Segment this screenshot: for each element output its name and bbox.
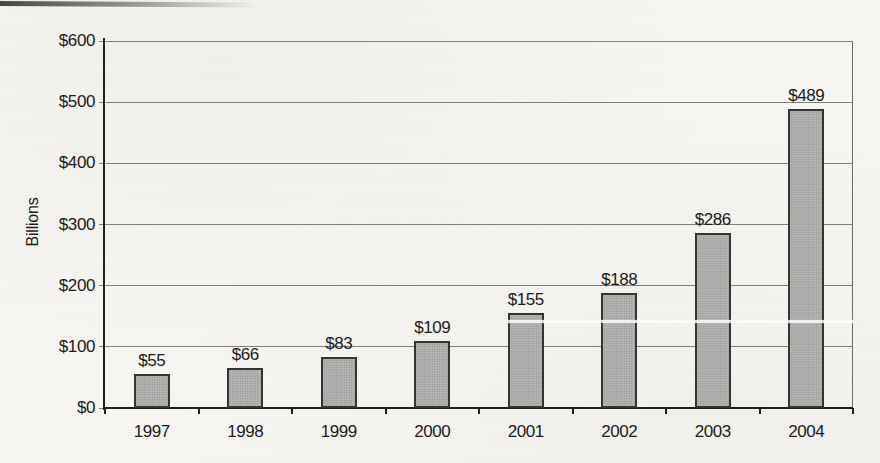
bar-value-label: $489 bbox=[771, 86, 841, 105]
y-tick-label: $0 bbox=[29, 399, 95, 417]
x-axis-tick bbox=[852, 408, 854, 414]
x-tick-label: 2003 bbox=[673, 423, 753, 441]
x-axis-tick bbox=[572, 408, 574, 414]
x-tick-label: 1999 bbox=[299, 423, 379, 441]
y-tick-label: $300 bbox=[29, 216, 95, 234]
x-tick-label: 1997 bbox=[112, 423, 192, 441]
bar-2002 bbox=[601, 293, 637, 408]
bar-value-label: $109 bbox=[397, 318, 467, 337]
x-axis-tick bbox=[478, 408, 480, 414]
scan-artifact-top-edge bbox=[0, 1, 258, 8]
scan-streak-artifact bbox=[503, 320, 853, 323]
y-tick-label: $400 bbox=[29, 154, 95, 172]
y-axis-line bbox=[103, 38, 105, 410]
x-axis-tick bbox=[385, 408, 387, 414]
x-axis-tick bbox=[665, 408, 667, 414]
bar-1997 bbox=[134, 374, 170, 408]
y-tick-label: $600 bbox=[29, 32, 95, 50]
y-tick-label: $100 bbox=[29, 338, 95, 356]
gridline-200 bbox=[99, 285, 853, 286]
bar-chart: Billions $0$100$200$300$400$500$600$5519… bbox=[0, 0, 880, 463]
bar-value-label: $155 bbox=[491, 290, 561, 309]
x-tick-label: 2000 bbox=[392, 423, 472, 441]
x-tick-label: 2002 bbox=[579, 423, 659, 441]
bar-2000 bbox=[414, 341, 450, 408]
x-axis-tick bbox=[759, 408, 761, 414]
bar-1999 bbox=[321, 357, 357, 408]
bar-value-label: $66 bbox=[210, 345, 280, 364]
x-axis-tick bbox=[291, 408, 293, 414]
y-tick-label: $200 bbox=[29, 277, 95, 295]
x-tick-label: 2001 bbox=[486, 423, 566, 441]
x-axis-tick bbox=[104, 408, 106, 414]
x-tick-label: 1998 bbox=[205, 423, 285, 441]
bar-1998 bbox=[227, 368, 263, 408]
x-tick-label: 2004 bbox=[766, 423, 846, 441]
gridline-500 bbox=[99, 102, 853, 103]
bar-value-label: $55 bbox=[117, 351, 187, 370]
plot-right-border bbox=[852, 41, 853, 408]
bar-value-label: $188 bbox=[584, 270, 654, 289]
gridline-400 bbox=[99, 163, 853, 164]
bar-value-label: $83 bbox=[304, 334, 374, 353]
x-axis-tick bbox=[198, 408, 200, 414]
bar-value-label: $286 bbox=[678, 210, 748, 229]
bar-2004 bbox=[788, 109, 824, 408]
bar-2001 bbox=[508, 313, 544, 408]
gridline-600 bbox=[99, 41, 853, 42]
y-tick-label: $500 bbox=[29, 93, 95, 111]
